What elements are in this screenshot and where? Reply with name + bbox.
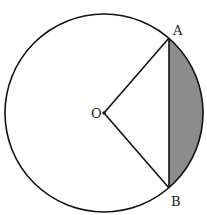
radius-OB [104,113,169,188]
geometry-diagram: O A B [0,0,207,215]
shaded-segment [169,38,203,188]
label-A: A [172,23,183,38]
center-point-O [102,111,106,115]
label-O: O [91,106,102,121]
radius-OA [104,38,169,113]
label-B: B [171,194,181,209]
diagram-canvas: O A B [0,0,207,215]
